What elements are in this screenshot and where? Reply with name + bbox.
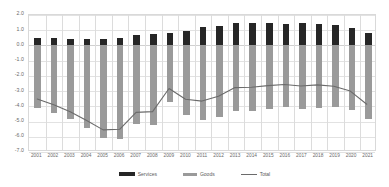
x-tick-label: 2009 [161,152,178,160]
x-tick-label: 2014 [243,152,260,160]
x-tick-label: 2001 [28,152,45,160]
x-tick-label: 2015 [260,152,277,160]
legend-label-total: Total [260,171,271,177]
chart-container: 2.01.00.0-1.0-2.0-3.0-4.0-5.0-6.0-7.0 20… [0,0,389,187]
y-tick-label: -2.0 [0,72,24,77]
x-axis-labels: 2001200220032004200520062007200820092010… [28,152,376,164]
y-axis-labels: 2.01.00.0-1.0-2.0-3.0-4.0-5.0-6.0-7.0 [0,14,26,151]
x-tick-label: 2010 [177,152,194,160]
x-tick-label: 2008 [144,152,161,160]
y-tick-label: 2.0 [0,11,24,16]
legend-item-services[interactable]: Services [119,171,157,177]
legend-label-goods: Goods [200,171,215,177]
total-line-path [37,84,367,129]
total-line-swatch-icon [241,174,257,175]
x-tick-label: 2019 [326,152,343,160]
x-tick-label: 2004 [78,152,95,160]
goods-swatch-icon [183,173,197,176]
y-tick-label: 0.0 [0,42,24,47]
x-tick-label: 2003 [61,152,78,160]
x-tick-label: 2016 [277,152,294,160]
x-tick-label: 2013 [227,152,244,160]
y-tick-label: -4.0 [0,103,24,108]
legend-item-goods[interactable]: Goods [183,171,215,177]
x-tick-label: 2006 [111,152,128,160]
x-tick-label: 2007 [127,152,144,160]
x-tick-label: 2005 [94,152,111,160]
legend-label-services: Services [138,171,157,177]
x-tick-label: 2011 [194,152,211,160]
y-tick-label: -6.0 [0,133,24,138]
plot-area [28,14,376,151]
y-tick-label: -1.0 [0,57,24,62]
total-line-series [29,15,375,150]
chart-legend: Services Goods Total [0,168,389,180]
x-tick-label: 2020 [343,152,360,160]
y-tick-label: -7.0 [0,148,24,153]
y-tick-label: 1.0 [0,27,24,32]
y-tick-label: -3.0 [0,88,24,93]
x-tick-label: 2021 [359,152,376,160]
legend-item-total[interactable]: Total [241,171,271,177]
x-tick-label: 2012 [210,152,227,160]
y-tick-label: -5.0 [0,118,24,123]
x-tick-label: 2018 [310,152,327,160]
services-swatch-icon [119,172,135,176]
x-tick-label: 2017 [293,152,310,160]
x-tick-label: 2002 [45,152,62,160]
